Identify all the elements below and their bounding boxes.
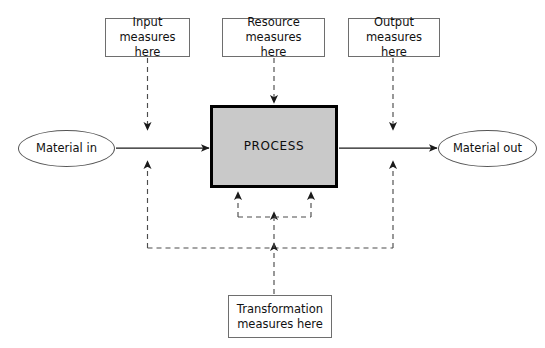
resource-measures-label: Resource measures here — [227, 15, 320, 59]
input-measures-label: Input measures here — [110, 15, 185, 59]
process-measures-diagram: Input measures here Resource measures he… — [0, 0, 545, 348]
material-in-label: Material in — [36, 141, 97, 156]
resource-measures-box: Resource measures here — [222, 18, 325, 57]
process-box: PROCESS — [210, 105, 338, 188]
material-in-ellipse: Material in — [18, 130, 115, 167]
material-out-ellipse: Material out — [438, 130, 537, 167]
transformation-measures-box: Transformation measures here — [228, 295, 332, 338]
transformation-measures-label: Transformation measures here — [237, 302, 323, 331]
output-measures-box: Output measures here — [348, 18, 440, 57]
output-measures-label: Output measures here — [353, 15, 435, 59]
input-measures-box: Input measures here — [105, 18, 190, 57]
process-label: PROCESS — [244, 139, 304, 154]
material-out-label: Material out — [453, 141, 522, 156]
